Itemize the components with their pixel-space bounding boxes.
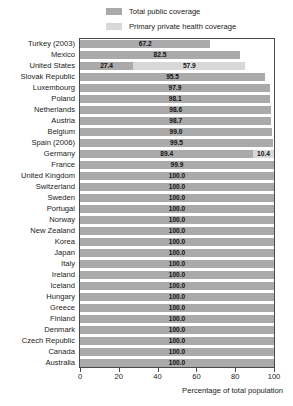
- category-label: Korea: [0, 237, 75, 246]
- bar-value-public: 100.0: [169, 270, 186, 279]
- bar-value-public: 100.0: [169, 237, 186, 246]
- bar-row: Austria98.7: [0, 115, 293, 127]
- bar-row: Belgium99.0: [0, 126, 293, 138]
- bar-rows: Turkey (2003)67.2Mexico82.5United States…: [0, 38, 293, 368]
- bar-group: 82.5: [80, 51, 274, 59]
- bar-value-public: 100.0: [169, 347, 186, 356]
- bar-group: 100.0: [80, 205, 274, 213]
- bar-row: Poland98.1: [0, 93, 293, 105]
- bar-group: 100.0: [80, 260, 274, 268]
- bar-group: 100.0: [80, 315, 274, 323]
- bar-value-public: 99.5: [170, 138, 183, 147]
- bar-value-public: 100.0: [169, 336, 186, 345]
- bar-row: Mexico82.5: [0, 49, 293, 61]
- category-label: Turkey (2003): [0, 39, 75, 48]
- bar-row: Greece100.0: [0, 302, 293, 314]
- bar-row: Finland100.0: [0, 313, 293, 325]
- bar-row: Luxembourg97.9: [0, 82, 293, 94]
- bar-group: 100.0: [80, 293, 274, 301]
- bar-value-public: 82.5: [154, 50, 167, 59]
- bar-value-public: 100.0: [169, 182, 186, 191]
- bar-value-public: 100.0: [169, 281, 186, 290]
- bar-value-public: 100.0: [169, 248, 186, 257]
- x-axis-tick-label: 100: [268, 372, 281, 382]
- legend-item-total-public-coverage: Total public coverage: [106, 5, 286, 17]
- bar-value-public: 100.0: [169, 193, 186, 202]
- bar-row: Japan100.0: [0, 247, 293, 259]
- bar-row: United States27.457.9: [0, 60, 293, 72]
- bar-row: France99.9: [0, 159, 293, 171]
- bar-value-public: 100.0: [169, 215, 186, 224]
- bar-row: Spain (2006)99.5: [0, 137, 293, 149]
- category-label: France: [0, 160, 75, 169]
- bar-value-public: 100.0: [169, 325, 186, 334]
- legend-label-primary-private-health-coverage: Primary private health coverage: [129, 22, 236, 31]
- bar-group: 100.0: [80, 359, 274, 367]
- bar-value-private: 10.4: [257, 149, 270, 158]
- bar-row: Norway100.0: [0, 214, 293, 226]
- bar-group: 100.0: [80, 337, 274, 345]
- category-label: Portugal: [0, 204, 75, 213]
- bar-value-public: 100.0: [169, 303, 186, 312]
- category-label: Italy: [0, 259, 75, 268]
- category-label: Austria: [0, 116, 75, 125]
- bar-value-public: 100.0: [169, 314, 186, 323]
- bar-row: Turkey (2003)67.2: [0, 38, 293, 50]
- bar-row: United Kingdom100.0: [0, 170, 293, 182]
- category-label: Netherlands: [0, 105, 75, 114]
- bar-group: 100.0: [80, 227, 274, 235]
- bar-group: 100.0: [80, 249, 274, 257]
- bar-value-public: 100.0: [169, 292, 186, 301]
- x-axis-tick-label: 40: [153, 372, 161, 382]
- coverage-bar-chart: Total public coverage Primary private he…: [0, 0, 293, 406]
- x-axis: 020406080100: [79, 368, 275, 384]
- category-label: Luxembourg: [0, 83, 75, 92]
- bar-row: New Zealand100.0: [0, 225, 293, 237]
- bar-group: 100.0: [80, 238, 274, 246]
- bar-row: Iceland100.0: [0, 280, 293, 292]
- bar-value-public: 100.0: [169, 259, 186, 268]
- category-label: Australia: [0, 358, 75, 367]
- bar-row: Hungary100.0: [0, 291, 293, 303]
- bar-row: Czech Republic100.0: [0, 335, 293, 347]
- bar-value-public: 67.2: [139, 39, 152, 48]
- x-axis-tick-label: 60: [192, 372, 200, 382]
- category-label: Spain (2006): [0, 138, 75, 147]
- category-label: Poland: [0, 94, 75, 103]
- category-label: Mexico: [0, 50, 75, 59]
- bar-group: 100.0: [80, 271, 274, 279]
- bar-group: 98.1: [80, 95, 274, 103]
- x-axis-tick-label: 0: [78, 372, 82, 382]
- chart-legend: Total public coverage Primary private he…: [106, 5, 286, 35]
- bar-value-public: 99.0: [170, 127, 183, 136]
- bar-row: Ireland100.0: [0, 269, 293, 281]
- bar-group: 99.9: [80, 161, 274, 169]
- x-axis-title: Percentage of total population: [0, 386, 283, 396]
- x-axis-tick-label: 80: [231, 372, 239, 382]
- bar-row: Italy100.0: [0, 258, 293, 270]
- category-label: Switzerland: [0, 182, 75, 191]
- bar-group: 98.7: [80, 117, 274, 125]
- bar-row: Korea100.0: [0, 236, 293, 248]
- legend-swatch-primary-private-health-coverage: [106, 23, 122, 30]
- bar-row: Australia100.0: [0, 357, 293, 369]
- bar-value-public: 89.4: [160, 149, 173, 158]
- x-axis-tick-label: 20: [115, 372, 123, 382]
- category-label: Sweden: [0, 193, 75, 202]
- bar-value-public: 98.7: [169, 116, 182, 125]
- bar-value-public: 97.9: [169, 83, 182, 92]
- bar-group: 97.9: [80, 84, 274, 92]
- bar-group: 89.410.4: [80, 150, 274, 158]
- category-label: Norway: [0, 215, 75, 224]
- bar-group: 99.5: [80, 139, 274, 147]
- bar-row: Switzerland100.0: [0, 181, 293, 193]
- category-label: United States: [0, 61, 75, 70]
- bar-group: 100.0: [80, 183, 274, 191]
- category-label: Denmark: [0, 325, 75, 334]
- bar-value-public: 95.5: [166, 72, 179, 81]
- bar-group: 67.2: [80, 40, 274, 48]
- category-label: New Zealand: [0, 226, 75, 235]
- bar-row: Canada100.0: [0, 346, 293, 358]
- bar-value-public: 100.0: [169, 204, 186, 213]
- bar-group: 100.0: [80, 282, 274, 290]
